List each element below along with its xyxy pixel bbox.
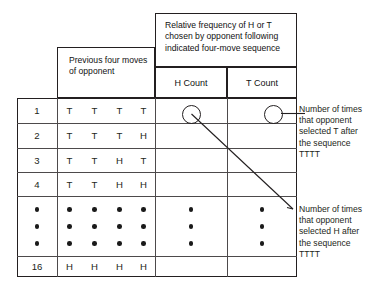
ellipsis-dot: [260, 241, 265, 246]
ellipsis-dot: [92, 207, 97, 212]
table-row-index: 3: [17, 148, 57, 172]
ellipsis-dot: [67, 241, 72, 246]
ellipsis-dot: [35, 241, 40, 246]
ellipsis-dot: [35, 207, 40, 212]
h-count-callout-circle: [182, 105, 201, 124]
row-divider: [17, 196, 297, 197]
ellipsis-dot: [141, 224, 146, 229]
ellipsis-dot: [67, 207, 72, 212]
table-cell-move: T: [132, 148, 155, 172]
table-cell-move: T: [82, 172, 107, 196]
table-cell-move: T: [82, 98, 107, 123]
table-row-index: 16: [17, 256, 57, 277]
ellipsis-dot: [189, 224, 194, 229]
table-row-index: 2: [17, 123, 57, 148]
previous-moves-header: Previous four moves of opponent: [57, 47, 155, 98]
table-cell-move: H: [107, 172, 132, 196]
t-count-annotation: Number of times that opponent selected T…: [299, 104, 384, 160]
ellipsis-dot: [67, 224, 72, 229]
t-count-annotation-line: TTTT: [299, 149, 384, 160]
ellipsis-dot: [117, 224, 122, 229]
four-move-sequence-table-figure: Relative frequency of H or T chosen by o…: [0, 0, 384, 294]
ellipsis-dot: [260, 224, 265, 229]
h-count-annotation-line: selected H after: [299, 226, 384, 237]
t-count-annotation-line: selected T after: [299, 126, 384, 137]
ellipsis-dot: [92, 224, 97, 229]
table-row-index: 4: [17, 172, 57, 196]
ellipsis-dot: [189, 207, 194, 212]
ellipsis-dot: [141, 207, 146, 212]
table-cell-move: H: [132, 256, 155, 277]
table-cell-move: H: [132, 172, 155, 196]
table-cell-move: H: [107, 148, 132, 172]
table-cell-t-count: [227, 172, 297, 196]
previous-moves-header-text: Previous four moves of opponent: [69, 55, 147, 76]
h-count-annotation-line: the sequence: [299, 238, 384, 249]
table-cell-move: T: [107, 123, 132, 148]
table-cell-t-count: [227, 123, 297, 148]
table-cell-move: T: [132, 98, 155, 123]
t-count-column-header: T Count: [227, 67, 297, 98]
table-cell-move: H: [107, 256, 132, 277]
t-count-annotation-line: that opponent: [299, 115, 384, 126]
h-count-annotation-line: that opponent: [299, 215, 384, 226]
table-cell-t-count: [227, 148, 297, 172]
ellipsis-dot: [117, 207, 122, 212]
table-row-index: 1: [17, 98, 57, 123]
table-cell-move: H: [57, 256, 82, 277]
ellipsis-dot: [92, 241, 97, 246]
h-count-annotation-line: Number of times: [299, 204, 384, 215]
ellipsis-dot: [189, 241, 194, 246]
h-count-annotation: Number of times that opponent selected H…: [299, 204, 384, 260]
table-cell-t-count: [227, 256, 297, 277]
h-count-column-header-text: H Count: [174, 78, 207, 88]
t-count-column-header-text: T Count: [246, 78, 278, 88]
table-cell-move: T: [57, 172, 82, 196]
table-cell-move: T: [57, 148, 82, 172]
relative-frequency-header: Relative frequency of H or T chosen by o…: [155, 13, 297, 67]
table-cell-move: T: [82, 148, 107, 172]
table-cell-t-count: [227, 98, 297, 123]
table-cell-move: H: [132, 123, 155, 148]
table-cell-h-count: [155, 148, 227, 172]
table-cell-move: T: [107, 98, 132, 123]
t-count-annotation-line: the sequence: [299, 138, 384, 149]
ellipsis-dot: [117, 241, 122, 246]
t-count-callout-circle: [264, 105, 283, 124]
relative-frequency-header-text: Relative frequency of H or T chosen by o…: [165, 20, 280, 53]
table-cell-move: H: [82, 256, 107, 277]
table-cell-move: T: [82, 123, 107, 148]
t-count-annotation-line: Number of times: [299, 104, 384, 115]
table-cell-move: T: [57, 123, 82, 148]
table-cell-move: T: [57, 98, 82, 123]
table-cell-h-count: [155, 256, 227, 277]
table-cell-h-count: [155, 172, 227, 196]
h-count-annotation-line: TTTT: [299, 249, 384, 260]
h-count-column-header: H Count: [155, 67, 227, 98]
ellipsis-dot: [35, 224, 40, 229]
ellipsis-dot: [260, 207, 265, 212]
ellipsis-dot: [141, 241, 146, 246]
table-cell-h-count: [155, 123, 227, 148]
